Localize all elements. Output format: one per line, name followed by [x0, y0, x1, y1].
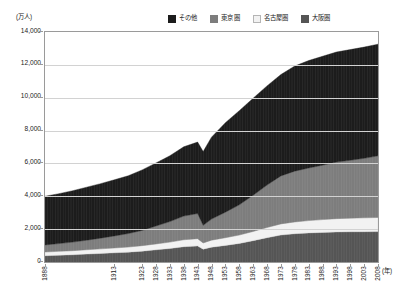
- x-axis-tick-label: 1988: [319, 266, 325, 281]
- y-axis-tick-mark: [39, 64, 43, 65]
- plot-area: [44, 31, 379, 263]
- x-axis-tick-label: 1978: [292, 266, 298, 281]
- x-axis-tick-label: 1983: [305, 266, 311, 281]
- x-axis-tick-label: 1963: [250, 266, 256, 281]
- x-axis-tick-label: 1888: [42, 266, 48, 281]
- x-axis-tick-label: 1928: [153, 266, 159, 281]
- x-axis-tick-label: 1998: [347, 266, 353, 281]
- y-axis-tick-label: 10,000: [1, 93, 41, 100]
- x-axis-tick-mark: [350, 264, 351, 267]
- x-axis-tick-label: 1958: [236, 266, 242, 281]
- stacked-area-chart: (万人) その他 東京圏 名古屋圏 大阪圏 14,00012,00010,000…: [0, 0, 402, 298]
- legend-label-osaka: 大阪圏: [312, 15, 330, 21]
- gridline: [45, 229, 378, 230]
- x-axis-tick-label: 1973: [278, 266, 284, 281]
- x-axis-tick-mark: [364, 264, 365, 267]
- gridline: [45, 163, 378, 164]
- y-axis-tick-mark: [39, 261, 43, 262]
- gridline: [45, 131, 378, 132]
- x-axis-tick-mark: [198, 264, 199, 267]
- area-series-svg: [45, 32, 378, 262]
- x-axis-tick-label: 2003: [361, 266, 367, 281]
- x-axis-tick-mark: [309, 264, 310, 267]
- gridline: [45, 196, 378, 197]
- x-axis-tick-mark: [212, 264, 213, 267]
- legend-swatch-osaka-icon: [301, 15, 309, 23]
- legend-item-osaka[interactable]: 大阪圏: [301, 15, 330, 23]
- legend-label-nagoya: 名古屋圏: [264, 15, 288, 21]
- legend-label-other: その他: [179, 15, 197, 21]
- x-axis-tick-mark: [378, 264, 379, 267]
- x-axis-tick-label: 2008: [375, 266, 381, 281]
- y-axis-tick-label: 2,000: [1, 225, 41, 232]
- y-axis-tick-mark: [39, 162, 43, 163]
- x-axis-tick-mark: [253, 264, 254, 267]
- y-axis-tick-label: 4,000: [1, 192, 41, 199]
- x-axis-tick-mark: [295, 264, 296, 267]
- gridline: [45, 65, 378, 66]
- legend-swatch-nagoya-icon: [253, 15, 261, 23]
- x-axis-tick-mark: [114, 264, 115, 267]
- legend-item-other[interactable]: その他: [168, 15, 197, 23]
- x-axis-tick-mark: [225, 264, 226, 267]
- legend-label-tokyo: 東京圏: [221, 15, 239, 21]
- y-axis-tick-mark: [39, 195, 43, 196]
- x-axis-tick-mark: [267, 264, 268, 267]
- x-axis-tick-mark: [239, 264, 240, 267]
- x-axis-tick-label: 1923: [139, 266, 145, 281]
- gridline: [45, 98, 378, 99]
- y-axis-tick-mark: [39, 228, 43, 229]
- x-axis-tick-label: 1953: [222, 266, 228, 281]
- x-axis-tick-mark: [142, 264, 143, 267]
- x-axis-tick-label: 1993: [333, 266, 339, 281]
- x-axis-tick-mark: [184, 264, 185, 267]
- x-axis: 1888191319231928193319381943194819531958…: [44, 264, 379, 298]
- x-axis-tick-label: 1968: [264, 266, 270, 281]
- y-axis: 14,00012,00010,0008,0006,0004,0002,0000: [0, 31, 41, 263]
- x-axis-tick-label: 1938: [181, 266, 187, 281]
- x-axis-tick-mark: [156, 264, 157, 267]
- y-axis-tick-mark: [39, 130, 43, 131]
- x-axis-tick-mark: [336, 264, 337, 267]
- legend-item-tokyo[interactable]: 東京圏: [210, 15, 239, 23]
- y-axis-tick-label: 12,000: [1, 60, 41, 67]
- x-axis-unit-label: (年): [382, 266, 392, 275]
- x-axis-tick-mark: [170, 264, 171, 267]
- x-axis-tick-label: 1948: [208, 266, 214, 281]
- legend-item-nagoya[interactable]: 名古屋圏: [253, 15, 288, 23]
- y-axis-tick-label: 0: [1, 258, 41, 265]
- x-axis-tick-label: 1933: [167, 266, 173, 281]
- x-axis-tick-label: 1943: [194, 266, 200, 281]
- legend-swatch-tokyo-icon: [210, 15, 218, 23]
- x-axis-tick-mark: [323, 264, 324, 267]
- y-axis-tick-mark: [39, 31, 43, 32]
- legend-swatch-other-icon: [168, 15, 176, 23]
- x-axis-tick-mark: [45, 264, 46, 267]
- chart-legend: その他 東京圏 名古屋圏 大阪圏: [168, 12, 330, 25]
- y-axis-tick-label: 14,000: [1, 28, 41, 35]
- y-axis-tick-mark: [39, 97, 43, 98]
- x-axis-tick-mark: [281, 264, 282, 267]
- y-axis-tick-label: 8,000: [1, 126, 41, 133]
- y-axis-unit-label: (万人): [16, 12, 32, 21]
- y-axis-tick-label: 6,000: [1, 159, 41, 166]
- x-axis-tick-label: 1913: [111, 266, 117, 281]
